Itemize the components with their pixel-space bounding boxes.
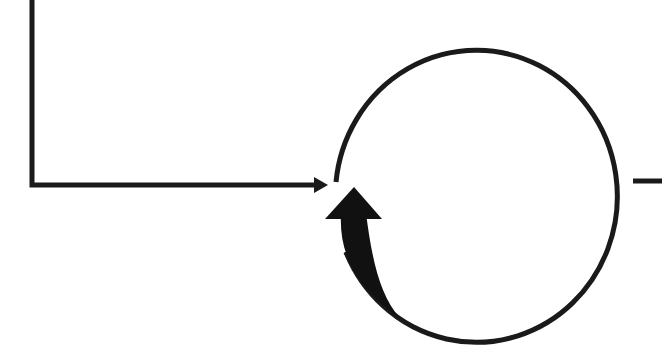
diagram-canvas <box>0 0 662 346</box>
feedback-arrow <box>325 187 400 318</box>
input-line <box>32 0 328 193</box>
feedback-loop-diagram <box>0 0 662 346</box>
arrowhead-icon <box>314 177 328 193</box>
arrow-up-icon <box>325 187 382 219</box>
